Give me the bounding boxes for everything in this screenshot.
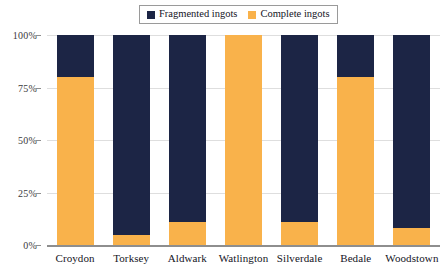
y-tick-label-0: 0% <box>23 240 37 251</box>
x-tick-label-aldwark: Aldwark <box>168 252 207 264</box>
legend-item-complete-ingots[interactable]: Complete ingots <box>248 9 329 20</box>
x-label-slot-silverdale: Silverdale <box>272 248 328 266</box>
bar-aldwark[interactable] <box>169 35 206 245</box>
bar-silverdale[interactable] <box>281 35 318 245</box>
bar-slot-aldwark <box>159 35 215 245</box>
x-tick-label-silverdale: Silverdale <box>277 252 323 264</box>
legend-label-fragmented: Fragmented ingots <box>159 9 237 20</box>
bar-slot-woodstown <box>384 35 440 245</box>
bar-group <box>47 35 440 245</box>
bar-segment-fragmented-silverdale[interactable] <box>281 35 318 222</box>
bar-slot-torksey <box>103 35 159 245</box>
bar-segment-fragmented-woodstown[interactable] <box>393 35 430 228</box>
bar-croydon[interactable] <box>57 35 94 245</box>
bar-segment-complete-croydon[interactable] <box>57 77 94 245</box>
chart-legend: Fragmented ingots Complete ingots <box>139 5 338 24</box>
bar-watlington[interactable] <box>225 35 262 245</box>
bar-segment-fragmented-torksey[interactable] <box>113 35 150 235</box>
chart-container: Fragmented ingots Complete ingots 0%25%5… <box>0 0 447 273</box>
x-label-slot-bedale: Bedale <box>328 248 384 266</box>
legend-item-fragmented-ingots[interactable]: Fragmented ingots <box>147 9 237 20</box>
bar-segment-complete-bedale[interactable] <box>337 77 374 245</box>
bar-segment-fragmented-bedale[interactable] <box>337 35 374 77</box>
y-tick-mark-75 <box>36 88 41 89</box>
x-label-slot-croydon: Croydon <box>47 248 103 266</box>
y-tick-mark-100 <box>36 35 41 36</box>
bar-torksey[interactable] <box>113 35 150 245</box>
y-tick-label-75: 75% <box>18 82 37 93</box>
x-label-slot-aldwark: Aldwark <box>159 248 215 266</box>
y-tick-label-50: 50% <box>18 135 37 146</box>
bar-slot-silverdale <box>272 35 328 245</box>
x-label-slot-woodstown: Woodstown <box>384 248 440 266</box>
y-tick-mark-50 <box>36 140 41 141</box>
y-tick-mark-25 <box>36 193 41 194</box>
x-label-slot-watlington: Watlington <box>215 248 271 266</box>
bar-segment-complete-aldwark[interactable] <box>169 222 206 245</box>
plot-area <box>47 35 440 245</box>
y-axis: 0%25%50%75%100% <box>0 35 41 245</box>
legend-swatch-icon-fragmented <box>147 11 155 19</box>
legend-label-complete: Complete ingots <box>260 9 329 20</box>
legend-swatch-icon-complete <box>248 11 256 19</box>
bar-slot-watlington <box>215 35 271 245</box>
y-tick-mark-0 <box>36 245 41 246</box>
x-tick-label-bedale: Bedale <box>340 252 371 264</box>
x-label-slot-torksey: Torksey <box>103 248 159 266</box>
bar-segment-fragmented-aldwark[interactable] <box>169 35 206 222</box>
x-tick-label-watlington: Watlington <box>219 252 269 264</box>
bar-segment-complete-woodstown[interactable] <box>393 228 430 245</box>
y-tick-label-25: 25% <box>18 187 37 198</box>
x-tick-label-croydon: Croydon <box>55 252 94 264</box>
bar-slot-croydon <box>47 35 103 245</box>
x-tick-label-woodstown: Woodstown <box>385 252 438 264</box>
bar-segment-complete-silverdale[interactable] <box>281 222 318 245</box>
bar-slot-bedale <box>328 35 384 245</box>
gridline-0 <box>47 245 440 247</box>
bar-segment-complete-torksey[interactable] <box>113 235 150 246</box>
x-tick-label-torksey: Torksey <box>113 252 149 264</box>
y-tick-label-100: 100% <box>13 30 37 41</box>
bar-bedale[interactable] <box>337 35 374 245</box>
bar-woodstown[interactable] <box>393 35 430 245</box>
bar-segment-complete-watlington[interactable] <box>225 35 262 245</box>
x-axis-labels: CroydonTorkseyAldwarkWatlingtonSilverdal… <box>47 248 440 266</box>
bar-segment-fragmented-croydon[interactable] <box>57 35 94 77</box>
